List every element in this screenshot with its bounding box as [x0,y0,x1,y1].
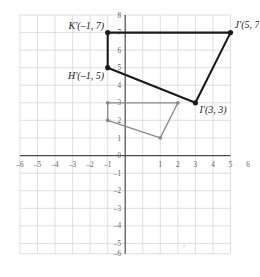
x-tick--4: –4 [50,161,59,169]
y-tick--4: –4 [113,222,122,230]
y-tick--1: –1 [113,170,122,178]
preimage-vertex-i [158,136,162,140]
label-h-prime: H′(–1, 5) [67,70,105,82]
x-tick--2: –2 [86,161,95,169]
label-j-prime: J′(5, 7) [235,19,260,31]
y-tick--2: –2 [113,187,122,195]
preimage-vertex-k [106,101,110,105]
y-tick--3: –3 [113,205,122,213]
y-tick--5: –5 [113,240,122,248]
label-k-prime: K′(–1, 7) [67,20,104,32]
graph-svg: –6 –5 –4 –3 –2 –1 1 2 3 4 5 6 8 7 6 5 4 … [0,0,259,277]
image-vertex-i-prime [193,100,198,105]
x-tick-1: 1 [159,161,163,169]
y-axis-tick-labels: 8 7 6 5 4 3 2 1 0 –1 –2 –3 –4 –5 –6 [113,12,122,259]
image-vertex-j-prime [228,30,233,35]
y-tick--6: –6 [113,250,122,258]
y-tick-8: 8 [117,12,121,20]
x-tick--1: –1 [103,161,112,169]
y-tick-6: 6 [117,47,121,55]
x-tick-2: 2 [176,161,180,169]
image-vertex-h-prime [105,65,110,70]
axes [20,15,231,254]
x-tick--3: –3 [68,161,77,169]
x-tick-4: 4 [211,161,215,169]
y-tick-1: 1 [117,135,121,143]
x-tick-6: 6 [246,161,250,169]
preimage-vertex-j [176,101,180,105]
stray-mark [183,245,185,247]
y-tick-4: 4 [117,82,121,90]
x-tick-3: 3 [194,161,198,169]
x-tick-5: 5 [229,161,233,169]
label-i-prime: I′(3, 3) [199,104,228,116]
y-tick-0: 0 [117,152,121,160]
image-vertex-k-prime [105,30,110,35]
coordinate-graph: –6 –5 –4 –3 –2 –1 1 2 3 4 5 6 8 7 6 5 4 … [0,0,259,277]
preimage-vertex-h [106,118,110,122]
x-tick--5: –5 [33,161,42,169]
x-axis-tick-labels: –6 –5 –4 –3 –2 –1 1 2 3 4 5 6 [15,161,250,169]
x-tick--6: –6 [15,161,24,169]
